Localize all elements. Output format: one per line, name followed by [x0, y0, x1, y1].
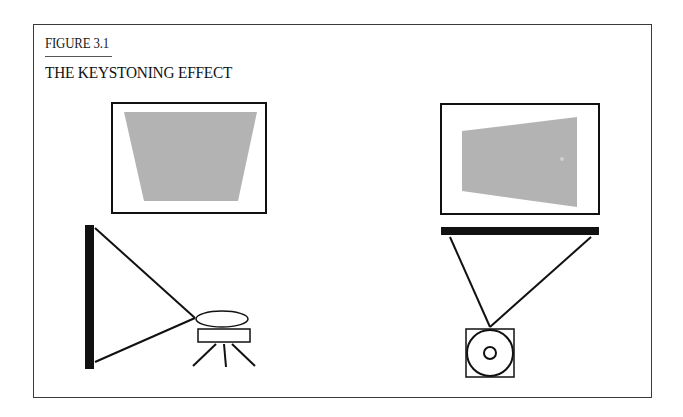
left-projected-image-trapezoid — [124, 112, 257, 201]
projector-lens-icon — [196, 311, 248, 327]
projector-side-view-icon — [193, 311, 255, 367]
projector-top-view-icon — [466, 329, 514, 377]
tripod-leg-center — [224, 344, 226, 367]
keystone-diagram — [0, 0, 683, 417]
left-wall-screen-bar — [85, 225, 94, 369]
right-projected-image-trapezoid — [462, 117, 577, 207]
image-highlight-dot — [560, 157, 564, 161]
right-projection-ray-right — [490, 237, 591, 327]
left-projection-ray-top — [95, 228, 195, 318]
tripod-leg-left — [193, 344, 216, 366]
projector-body-icon — [198, 329, 250, 342]
right-panel-horizontal-keystone — [441, 104, 599, 377]
right-wall-screen-bar — [441, 227, 599, 235]
right-projection-ray-left — [450, 237, 490, 327]
tripod-leg-right — [232, 344, 255, 366]
left-projection-ray-bottom — [95, 318, 195, 362]
left-panel-vertical-keystone — [85, 103, 266, 369]
